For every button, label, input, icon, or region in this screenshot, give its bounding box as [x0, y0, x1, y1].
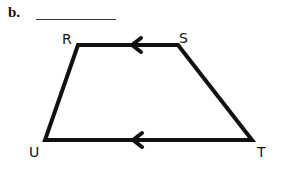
- vertex-label-S: S: [179, 30, 188, 46]
- vertex-label-T: T: [256, 144, 266, 160]
- vertex-label-R: R: [62, 31, 72, 47]
- trapezoid-RSTU: [45, 45, 252, 140]
- vertex-label-U: U: [29, 144, 39, 160]
- trapezoid-diagram: R S T U: [0, 0, 287, 180]
